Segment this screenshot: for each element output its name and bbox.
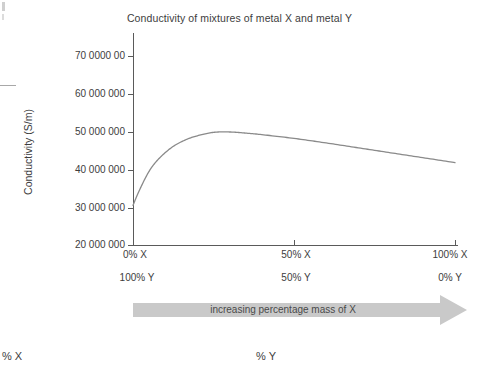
chart-title: Conductivity of mixtures of metal X and … — [0, 12, 479, 24]
scan-artifact-left-rule — [0, 85, 16, 86]
x-tick-label-100-percent-y: 100% Y — [120, 272, 155, 283]
y-tick-label-70000000: 70 0000 00 — [0, 50, 125, 61]
y-axis-line — [133, 33, 134, 246]
y-tick-mark-60000000 — [128, 94, 133, 95]
x-axis-line — [133, 245, 458, 246]
x-tick-label-100-percent-x: 100% X — [432, 249, 467, 260]
y-tick-mark-70000000 — [128, 56, 133, 57]
conductivity-chart-figure: Conductivity of mixtures of metal X and … — [0, 0, 479, 365]
x-tick-mark-100 — [455, 240, 456, 246]
y-axis-title: Conductivity (S/m) — [22, 82, 36, 222]
increasing-mass-arrow-label: increasing percentage mass of X — [133, 303, 433, 316]
y-tick-label-50000000: 50 000 000 — [0, 126, 125, 137]
bottom-caption-percent-x: % X — [2, 350, 22, 362]
y-tick-mark-50000000 — [128, 132, 133, 133]
bottom-caption-percent-y: % Y — [256, 350, 276, 362]
y-tick-mark-30000000 — [128, 208, 133, 209]
y-tick-label-60000000: 60 000 000 — [0, 88, 125, 99]
x-tick-label-0-percent-x: 0% X — [123, 249, 147, 260]
x-tick-label-50-percent-y: 50% Y — [281, 272, 310, 283]
y-tick-label-20000000: 20 000 000 — [0, 239, 125, 250]
conductivity-curve — [133, 132, 455, 205]
y-tick-label-30000000: 30 000 000 — [0, 202, 125, 213]
y-tick-mark-40000000 — [128, 170, 133, 171]
x-tick-label-50-percent-x: 50% X — [281, 249, 310, 260]
x-tick-mark-50 — [294, 240, 295, 246]
y-tick-label-40000000: 40 000 000 — [0, 164, 125, 175]
x-tick-mark-0 — [133, 240, 134, 246]
scan-artifact-top-nick — [2, 2, 5, 11]
x-tick-label-0-percent-y: 0% Y — [438, 272, 462, 283]
